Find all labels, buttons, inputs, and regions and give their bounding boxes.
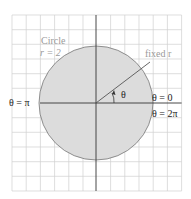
theta-2pi-label: θ = 2π [152,108,177,119]
angle-label: θ [121,89,126,100]
theta-zero-label: θ = 0 [152,92,172,103]
circle-label-line2: r = 2 [40,47,61,58]
radius-label: fixed r [145,48,172,59]
polar-diagram: Circle r = 2 fixed r θ θ = π θ = 0 θ = 2… [0,0,191,199]
circle-label-line1: Circle [41,35,66,46]
theta-pi-label: θ = π [9,97,29,108]
